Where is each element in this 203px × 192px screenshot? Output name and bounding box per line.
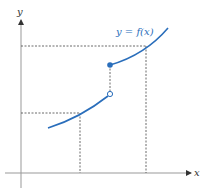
dashed-guides bbox=[21, 46, 146, 173]
open-circle-point bbox=[107, 91, 112, 96]
filled-dot-point bbox=[107, 62, 113, 68]
y-axis-label: y bbox=[16, 6, 23, 17]
function-diagram: y x y = f(x) bbox=[0, 0, 203, 192]
x-axis-label: x bbox=[194, 167, 200, 178]
curve-lower-branch bbox=[48, 96, 108, 128]
curve-label: y = f(x) bbox=[115, 26, 154, 37]
